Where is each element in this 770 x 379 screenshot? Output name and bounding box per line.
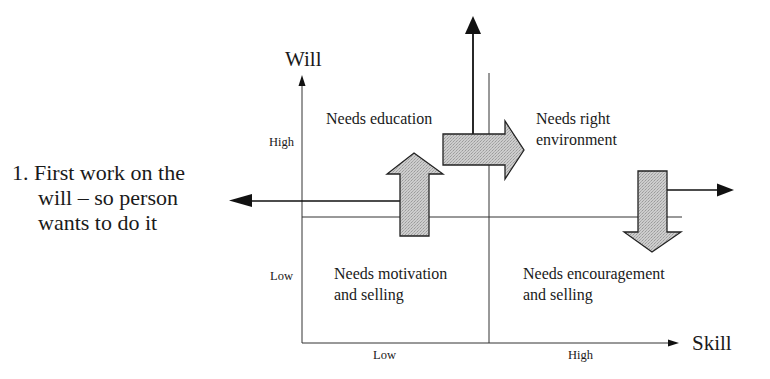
- quadrant-top-right-label-line1: Needs right: [536, 110, 611, 128]
- fat-right-arrow-icon: [443, 121, 524, 179]
- right-arrowhead-icon: [717, 184, 734, 197]
- right-pointer-arrow: [667, 184, 734, 197]
- note-line-1: 1. First work on the: [12, 160, 185, 185]
- skill-axis-label: Skill: [692, 331, 732, 355]
- quadrant-bottom-left-label-line1: Needs motivation: [334, 265, 447, 282]
- left-pointer-arrow: [229, 194, 400, 207]
- skill-low-tick: Low: [373, 348, 396, 362]
- skill-axis: [302, 340, 679, 347]
- top-arrowhead-icon: [465, 16, 481, 34]
- quadrant-top-right-label-line2: environment: [536, 131, 617, 148]
- quadrant-bottom-left-label-line2: and selling: [334, 286, 404, 304]
- fat-down-arrow-icon: [624, 171, 681, 252]
- will-high-tick: High: [269, 135, 295, 149]
- will-low-tick: Low: [270, 269, 293, 283]
- note-line-2: will – so person: [38, 185, 178, 210]
- skill-high-tick: High: [568, 348, 594, 362]
- fat-up-arrow-icon: [387, 153, 443, 236]
- will-axis: [299, 75, 306, 343]
- quadrant-bottom-right-label-line1: Needs encouragement: [523, 265, 665, 283]
- will-axis-arrowhead-icon: [299, 75, 306, 86]
- skill-axis-arrowhead-icon: [668, 340, 679, 347]
- top-pointer-arrow: [465, 16, 481, 134]
- quadrant-bottom-right-label-line2: and selling: [523, 286, 593, 304]
- quadrant-top-left-label: Needs education: [326, 110, 432, 127]
- skill-will-diagram: Will Skill High Low Low High Needs educa…: [0, 0, 770, 379]
- note-line-3: wants to do it: [38, 210, 157, 235]
- left-arrowhead-icon: [229, 194, 252, 207]
- will-axis-label: Will: [285, 47, 322, 71]
